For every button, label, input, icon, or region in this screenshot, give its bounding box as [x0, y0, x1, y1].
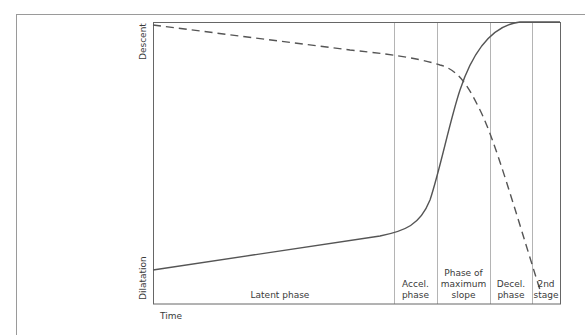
second-line-2: stage	[532, 290, 560, 301]
decel-line-1: Decel.	[490, 279, 532, 290]
phase-label-max-slope: Phase of maximum slope	[437, 268, 490, 301]
descent-curve	[153, 25, 540, 290]
phase-label-second-stage: 2nd stage	[532, 279, 560, 301]
accel-line-1: Accel.	[394, 279, 437, 290]
max-line-1: Phase of	[437, 268, 490, 279]
second-line-1: 2nd	[532, 279, 560, 290]
phase-label-latent: Latent phase	[230, 290, 330, 301]
dilatation-axis-label: Dilatation	[138, 256, 148, 300]
descent-axis-label: Descent	[138, 23, 148, 60]
phase-dividers	[395, 22, 533, 304]
decel-line-2: phase	[490, 290, 532, 301]
phase-label-accel: Accel. phase	[394, 279, 437, 301]
plot-frame	[154, 23, 561, 305]
dilatation-curve	[153, 22, 560, 270]
max-line-3: slope	[437, 290, 490, 301]
accel-line-2: phase	[394, 290, 437, 301]
max-line-2: maximum	[437, 279, 490, 290]
phase-label-decel: Decel. phase	[490, 279, 532, 301]
time-axis-label: Time	[160, 311, 182, 322]
